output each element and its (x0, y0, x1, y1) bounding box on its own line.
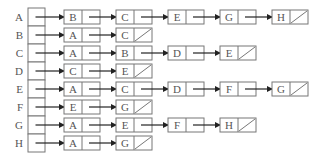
vertex-label: D (15, 65, 23, 77)
vertex-label: B (16, 29, 23, 41)
node-label: C (121, 29, 128, 41)
node-label: E (122, 65, 129, 77)
node-label: A (69, 47, 77, 59)
node-label: C (121, 11, 128, 23)
node-label: H (225, 119, 233, 131)
list-node: C (116, 28, 152, 42)
node-label: D (173, 47, 181, 59)
row-D: DCE (15, 62, 152, 80)
vertex-label: C (16, 47, 23, 59)
node-label: B (69, 11, 76, 23)
node-label: C (121, 83, 128, 95)
row-B: BAC (16, 26, 152, 44)
node-label: D (173, 83, 181, 95)
row-C: CABDE (16, 44, 256, 62)
node-label: A (69, 119, 77, 131)
node-label: F (174, 119, 180, 131)
node-label: G (225, 11, 233, 23)
vertex-label: E (16, 83, 23, 95)
vertex-label: G (15, 119, 23, 131)
node-label: G (121, 137, 129, 149)
row-A: ABCEGH (15, 8, 308, 26)
adjacency-list-diagram: ABCEGHBACCABDEDCEEACDFGFEGGAEFHHAG (0, 0, 322, 158)
node-label: H (277, 11, 285, 23)
list-node: G (116, 136, 152, 150)
row-E: EACDFG (16, 80, 308, 98)
node-label: F (226, 83, 232, 95)
node-label: G (277, 83, 285, 95)
list-node: G (116, 100, 152, 114)
row-G: GAEFH (15, 116, 256, 134)
node-label: E (174, 11, 181, 23)
vertex-label: H (15, 137, 23, 149)
node-label: E (122, 119, 129, 131)
row-H: HAG (15, 134, 152, 152)
vertex-label: F (17, 101, 23, 113)
node-label: C (69, 65, 76, 77)
node-label: A (69, 83, 77, 95)
node-label: A (69, 137, 77, 149)
node-label: E (70, 101, 77, 113)
list-node: G (272, 82, 308, 96)
vertex-label: A (15, 11, 23, 23)
node-label: A (69, 29, 77, 41)
list-node: H (272, 10, 308, 24)
node-label: E (226, 47, 233, 59)
list-node: H (220, 118, 256, 132)
list-node: E (220, 46, 256, 60)
node-label: B (121, 47, 128, 59)
row-F: FEG (17, 98, 152, 116)
list-node: E (116, 64, 152, 78)
node-label: G (121, 101, 129, 113)
